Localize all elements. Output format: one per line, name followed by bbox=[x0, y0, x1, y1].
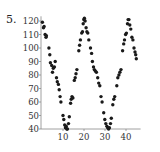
data-point bbox=[131, 38, 134, 41]
data-point bbox=[89, 46, 92, 49]
data-point bbox=[132, 46, 135, 49]
data-point bbox=[119, 68, 122, 71]
data-point bbox=[69, 102, 72, 105]
data-point bbox=[61, 114, 64, 117]
data-point bbox=[99, 95, 102, 98]
data-point bbox=[58, 88, 61, 91]
data-point bbox=[59, 100, 62, 103]
x-tick-label: 30 bbox=[100, 132, 111, 142]
data-point bbox=[66, 127, 69, 130]
y-tick-label: 120 bbox=[23, 16, 39, 26]
data-point bbox=[81, 30, 84, 33]
data-point bbox=[109, 122, 112, 125]
data-point bbox=[62, 118, 65, 121]
data-point bbox=[108, 126, 111, 129]
data-point bbox=[75, 68, 78, 71]
data-point bbox=[41, 21, 44, 24]
data-point bbox=[86, 31, 89, 34]
scatter-chart: 405060708090100110120 10203040 bbox=[0, 0, 160, 152]
y-tick-label: 100 bbox=[23, 43, 39, 53]
x-tick-label: 40 bbox=[121, 132, 132, 142]
y-tick-label: 110 bbox=[23, 30, 39, 40]
data-point bbox=[84, 26, 87, 29]
data-point bbox=[77, 49, 80, 52]
data-point bbox=[129, 27, 132, 30]
data-point bbox=[121, 49, 124, 52]
data-point bbox=[123, 38, 126, 41]
data-point bbox=[115, 84, 118, 87]
data-point bbox=[67, 122, 70, 125]
y-tick-label: 40 bbox=[28, 124, 39, 134]
y-tick-label: 90 bbox=[28, 57, 39, 67]
data-point bbox=[42, 25, 45, 28]
y-axis-ticks: 405060708090100110120 bbox=[23, 16, 41, 134]
x-tick-label: 10 bbox=[58, 132, 69, 142]
data-point bbox=[71, 96, 74, 99]
data-point bbox=[57, 83, 60, 86]
y-tick-label: 50 bbox=[28, 111, 39, 121]
data-point bbox=[47, 46, 50, 49]
data-point bbox=[79, 38, 82, 41]
data-point bbox=[125, 31, 128, 34]
data-point bbox=[135, 57, 138, 60]
data-point bbox=[128, 23, 131, 26]
data-point bbox=[53, 65, 56, 68]
data-point bbox=[45, 34, 48, 37]
data-point bbox=[122, 42, 125, 45]
data-point bbox=[74, 72, 77, 75]
data-point bbox=[95, 71, 98, 74]
data-point bbox=[103, 118, 106, 121]
data-point bbox=[110, 117, 113, 120]
data-point bbox=[55, 76, 58, 79]
data-point bbox=[48, 53, 51, 56]
data-point bbox=[54, 60, 57, 63]
data-point bbox=[90, 52, 93, 55]
data-point bbox=[113, 95, 116, 98]
y-tick-label: 80 bbox=[28, 70, 39, 80]
y-tick-label: 70 bbox=[28, 84, 39, 94]
data-point bbox=[83, 19, 86, 22]
data-point bbox=[91, 60, 94, 63]
data-point bbox=[87, 38, 90, 41]
data-point bbox=[78, 44, 81, 47]
data-point bbox=[74, 76, 77, 79]
data-points bbox=[41, 17, 138, 131]
x-tick-label: 20 bbox=[79, 132, 90, 142]
data-point bbox=[102, 111, 105, 114]
data-point bbox=[100, 100, 103, 103]
data-point bbox=[51, 71, 54, 74]
data-point bbox=[98, 84, 101, 87]
data-point bbox=[96, 76, 99, 79]
y-tick-label: 60 bbox=[28, 97, 39, 107]
data-point bbox=[111, 103, 114, 106]
x-axis-ticks: 10203040 bbox=[58, 129, 132, 142]
data-point bbox=[68, 115, 71, 118]
data-point bbox=[127, 18, 130, 21]
data-point bbox=[58, 95, 61, 98]
data-point bbox=[134, 53, 137, 56]
